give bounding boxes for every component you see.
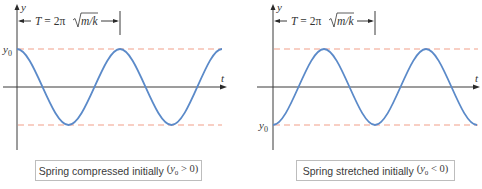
svg-text:T = 2π: T = 2π [291,15,321,27]
arrow-left-icon [274,19,280,23]
y-axis-arrow-icon [15,4,20,10]
period-formula: T = 2π m/k [35,13,99,27]
caption-stretched: Spring stretched initially (y0 < 0) [296,160,455,181]
caption-text: Spring stretched initially [303,165,414,177]
caption-compressed: Spring compressed initially (y0 > 0) [35,160,202,181]
y0-label: y0 [2,43,12,58]
caption-math: (y0 < 0) [417,163,449,177]
svg-text:m/k: m/k [81,15,99,27]
t-axis-arrow-icon [220,85,227,90]
caption-math: (y0 > 0) [167,163,199,177]
y-axis-label: y [276,1,282,13]
arrow-right-icon [368,19,374,23]
panel-compressed: y t y0 T = 2π m/k [2,1,227,150]
period-formula: T = 2π m/k [291,13,355,27]
caption-text: Spring compressed initially [39,165,164,177]
y-axis-label: y [20,1,26,13]
panel-stretched: y t y0 T = 2π m/k [257,1,480,150]
t-axis-arrow-icon [473,85,480,90]
svg-text:m/k: m/k [337,15,355,27]
y-axis-arrow-icon [271,4,276,10]
t-axis-label: t [475,72,479,84]
arrow-right-icon [113,19,119,23]
y0-label: y0 [258,119,268,134]
arrow-left-icon [18,19,24,23]
t-axis-label: t [221,72,225,84]
svg-text:T = 2π: T = 2π [35,15,65,27]
